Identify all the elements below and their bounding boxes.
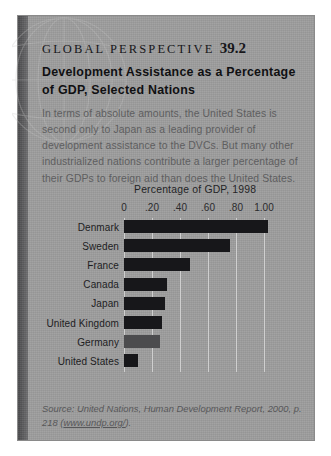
- box-headline: Development Assistance as a Percentage o…: [42, 64, 300, 99]
- bar-label-united-kingdom: United Kingdom: [46, 317, 119, 328]
- bar-label-france: France: [87, 259, 119, 270]
- chart-row: United States: [124, 354, 314, 367]
- bar-label-united-states: United States: [58, 355, 119, 366]
- box-body-text: In terms of absolute amounts, the United…: [42, 106, 306, 187]
- x-tick-3: .60: [201, 202, 215, 213]
- chart-title: Percentage of GDP, 1998: [134, 184, 256, 195]
- bar-united-states: [124, 354, 138, 367]
- box-spine-accent: [18, 16, 28, 440]
- x-tick-2: .40: [173, 202, 187, 213]
- chart-row: Denmark: [124, 220, 314, 233]
- bar-label-germany: Germany: [77, 336, 119, 347]
- bar-united-kingdom: [124, 316, 162, 329]
- source-work-title: Human Development Report,: [144, 403, 265, 414]
- source-prefix: Source: United Nations,: [42, 403, 144, 414]
- box-kicker: GLOBAL PERSPECTIVE 39.2: [42, 40, 246, 57]
- bar-label-japan: Japan: [91, 298, 119, 309]
- x-tick-5: 1.00: [254, 202, 273, 213]
- global-perspective-box: GLOBAL PERSPECTIVE 39.2 Development Assi…: [18, 16, 314, 440]
- x-axis-tick-labels: 0.20.40.60.801.00: [28, 202, 314, 216]
- x-tick-1: .20: [145, 202, 159, 213]
- chart-row: Japan: [124, 297, 314, 310]
- chart-row: United Kingdom: [124, 316, 314, 329]
- bar-label-sweden: Sweden: [82, 240, 119, 251]
- x-tick-4: .80: [229, 202, 243, 213]
- kicker-number: 39.2: [220, 40, 246, 56]
- kicker-label: GLOBAL PERSPECTIVE: [42, 42, 214, 56]
- bar-denmark: [124, 220, 268, 233]
- bar-canada: [124, 278, 167, 291]
- chart-row: France: [124, 258, 314, 271]
- bar-france: [124, 258, 190, 271]
- source-suffix: ).: [125, 417, 131, 428]
- chart-row: Germany: [124, 335, 314, 348]
- bar-label-denmark: Denmark: [78, 221, 119, 232]
- bar-germany: [124, 335, 160, 348]
- bar-japan: [124, 297, 165, 310]
- chart-plot-area: DenmarkSwedenFranceCanadaJapanUnited Kin…: [28, 218, 314, 378]
- bar-sweden: [124, 239, 230, 252]
- x-tick-0: 0: [121, 202, 127, 213]
- chart-row: Sweden: [124, 239, 314, 252]
- bar-chart: Percentage of GDP, 1998 0.20.40.60.801.0…: [28, 184, 314, 384]
- source-url-link[interactable]: www.undp.org/: [63, 417, 125, 428]
- source-note: Source: United Nations, Human Developmen…: [42, 402, 304, 430]
- bar-label-canada: Canada: [83, 279, 119, 290]
- chart-row: Canada: [124, 278, 314, 291]
